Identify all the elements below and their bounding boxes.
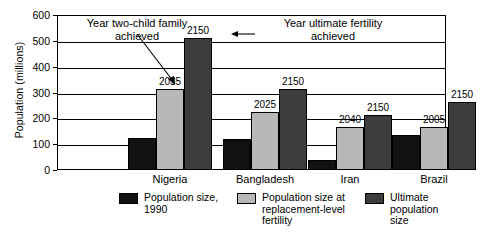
legend-item-replacement-level-fertility: Population size at replacement-level fer… [237,192,365,227]
bar-value-label-bangladesh-ultimate: 2150 [273,77,313,87]
legend-swatch-icon-replacement-level-fertility [237,193,256,204]
y-axis-tick-100: 100 [10,139,50,149]
bar-brazil-ultimate [448,102,476,170]
y-axis-tick-500: 500 [10,36,50,46]
y-axis-tick-0: 0 [10,165,50,175]
y-axis-tick-600: 600 [10,10,50,20]
legend-label-replacement-level-fertility: Population size at replacement-level fer… [262,192,345,227]
y-axis-tickmark [53,170,57,171]
legend-swatch-icon-ultimate-population-size [365,193,384,204]
bar-brazil-pop1990 [392,135,420,170]
bar-value-label-brazil-ultimate: 2150 [442,90,480,100]
y-axis-tick-200: 200 [10,113,50,123]
x-axis-label-brazil: Brazil [377,173,480,185]
bar-iran-ultimate [364,115,392,170]
annotation-year-ultimate-fertility-achieved: Year ultimate fertility achieved [258,17,408,42]
legend-item-population-size-1990: Population size, 1990 [119,192,237,215]
bar-nigeria-ultimate [184,38,212,170]
bar-nigeria-pop1990 [128,138,156,170]
bar-bangladesh-pop1990 [223,139,251,170]
bar-brazil-replacement [420,127,448,170]
bar-nigeria-replacement [156,89,184,170]
legend-label-population-size-1990: Population size, 1990 [144,192,218,215]
y-axis-tick-400: 400 [10,62,50,72]
bar-iran-pop1990 [308,160,336,170]
chart-legend: Population size, 1990 Population size at… [119,192,459,233]
bar-bangladesh-ultimate [279,89,307,170]
legend-swatch-icon-population-size-1990 [119,193,138,204]
y-axis-tick-300: 300 [10,88,50,98]
bar-bangladesh-replacement [251,112,279,170]
legend-label-ultimate-population-size: Ultimate population size [390,192,459,227]
legend-item-ultimate-population-size: Ultimate population size [365,192,459,227]
annotation-year-two-child-family-achieved: Year two-child family achieved [63,17,211,42]
bar-iran-replacement [336,127,364,170]
